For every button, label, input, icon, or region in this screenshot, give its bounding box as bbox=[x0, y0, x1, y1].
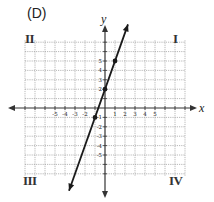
data-point bbox=[93, 115, 98, 120]
y-tick-label: -4 bbox=[97, 143, 103, 149]
y-tick-label: -1 bbox=[97, 114, 102, 120]
quadrant-label-iv: IV bbox=[169, 173, 182, 189]
x-tick-label: -3 bbox=[72, 111, 78, 117]
x-tick-label: -4 bbox=[62, 111, 68, 117]
x-tick-label: 5 bbox=[153, 111, 157, 117]
panel-label: (D) bbox=[27, 5, 46, 21]
y-axis-down-arrow-icon bbox=[102, 191, 108, 198]
x-tick-label: 3 bbox=[133, 111, 137, 117]
y-axis-label: y bbox=[101, 12, 106, 27]
line-end-arrow-icon bbox=[123, 24, 129, 32]
x-tick-label: -2 bbox=[82, 111, 87, 117]
x-tick-label: 1 bbox=[113, 111, 117, 117]
data-point bbox=[103, 87, 108, 92]
x-tick-label: -5 bbox=[52, 111, 58, 117]
quadrant-label-ii: II bbox=[25, 31, 34, 47]
quadrant-label-i: I bbox=[173, 31, 178, 47]
x-axis-left-arrow-icon bbox=[8, 105, 15, 111]
y-tick-label: -3 bbox=[97, 133, 103, 139]
y-tick-label: -2 bbox=[97, 124, 102, 130]
quadrant-label-iii: III bbox=[23, 173, 37, 189]
line-start-arrow-icon bbox=[69, 183, 75, 191]
x-axis-label: x bbox=[199, 101, 204, 116]
y-tick-label: 2 bbox=[99, 86, 103, 92]
y-tick-label: -5 bbox=[97, 152, 103, 158]
x-tick-label: 4 bbox=[143, 111, 147, 117]
y-tick-label: 4 bbox=[99, 67, 103, 73]
y-tick-label: 3 bbox=[99, 77, 103, 83]
y-tick-label: 5 bbox=[99, 58, 103, 64]
x-tick-label: 2 bbox=[123, 111, 127, 117]
data-point bbox=[113, 59, 118, 64]
x-axis-right-arrow-icon bbox=[190, 105, 197, 111]
